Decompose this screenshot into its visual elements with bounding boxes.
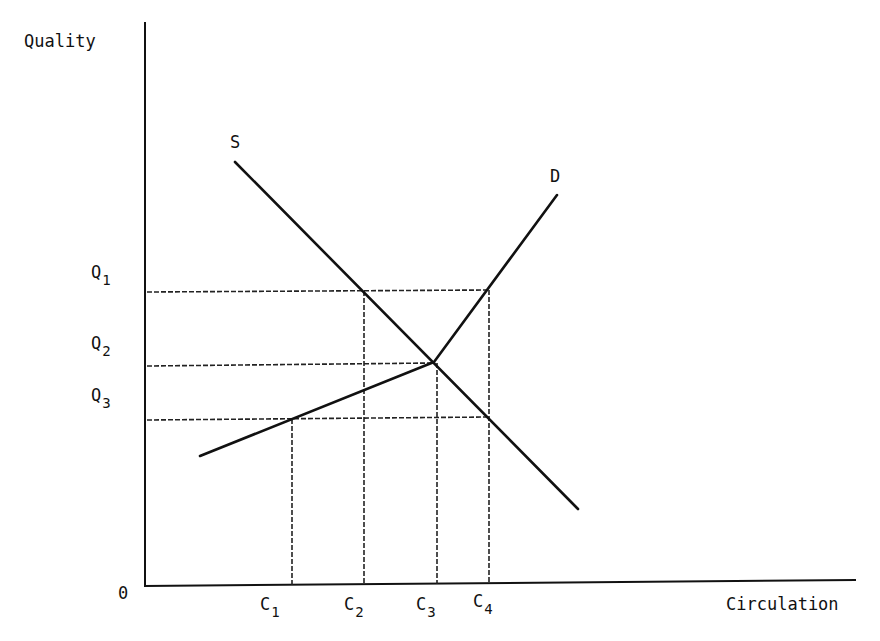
y-axis-label: Quality <box>24 31 96 51</box>
q1-label: Q1 <box>91 262 111 282</box>
guide-q2 <box>147 363 434 366</box>
x-axis <box>144 580 856 586</box>
c2-label: C2 <box>344 594 364 614</box>
q2-label: Q2 <box>91 333 111 353</box>
c4-label: C4 <box>473 591 493 611</box>
q3-label: Q3 <box>91 385 111 405</box>
guide-q1 <box>147 290 489 292</box>
diagram-canvas <box>0 0 880 641</box>
c1-label: C1 <box>260 594 280 614</box>
demand-label: D <box>550 166 560 186</box>
supply-label: S <box>230 132 240 152</box>
origin-label: 0 <box>118 583 128 603</box>
supply-curve <box>235 162 578 509</box>
x-axis-label: Circulation <box>726 594 839 614</box>
demand-curve <box>200 195 557 456</box>
c3-label: C3 <box>416 594 436 614</box>
